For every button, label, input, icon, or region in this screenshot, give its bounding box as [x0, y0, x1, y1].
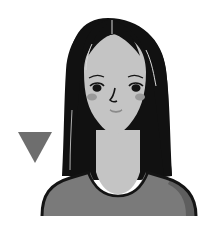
- blush-left: [87, 94, 97, 101]
- eye-right: [132, 84, 141, 92]
- woman-illustration: [0, 0, 216, 233]
- portrait-illustration: [0, 0, 216, 233]
- blush-right: [135, 94, 145, 101]
- neck: [96, 130, 140, 194]
- eye-left: [93, 84, 102, 92]
